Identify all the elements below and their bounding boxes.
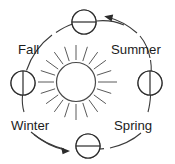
orbit-arc-right-upper (151, 60, 152, 71)
earth-bottom (76, 134, 100, 158)
seasons-diagram-canvas: Fall Summer Winter Spring (0, 0, 175, 164)
arrow-top-right-shaft (108, 17, 137, 33)
label-summer: Summer (111, 42, 161, 57)
label-winter: Winter (11, 118, 50, 133)
orbit-arc-top-left-b (56, 24, 73, 33)
orbit-arc-bottom-left (31, 132, 64, 149)
earth-left (11, 71, 35, 95)
label-fall: Fall (18, 42, 39, 57)
sun-icon (38, 45, 117, 120)
seasons-diagram: Fall Summer Winter Spring (0, 0, 175, 164)
sun-disc (57, 63, 96, 102)
orbit-arc-left-lower (22, 95, 24, 112)
orbit-arc-right-lower (148, 95, 151, 112)
label-spring: Spring (114, 118, 152, 133)
arrow-bottom-left-head (61, 148, 70, 155)
orbit-arc-bottom-right (110, 133, 141, 148)
earth-top (72, 10, 96, 34)
earth-right (138, 71, 162, 95)
arrow-bottom-left (34, 135, 70, 155)
